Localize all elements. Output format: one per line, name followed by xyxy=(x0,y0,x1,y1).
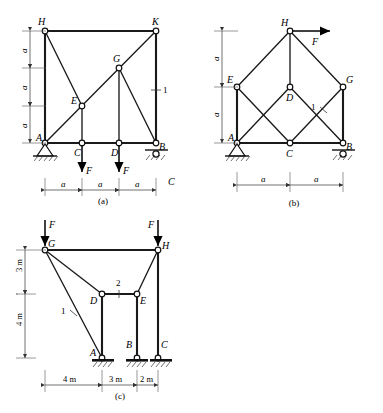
node-label-H: H xyxy=(280,17,289,28)
svg-text:a: a xyxy=(19,48,29,53)
node-label-G: G xyxy=(48,238,55,249)
node-label-D: D xyxy=(285,92,294,103)
figure-b-truss: H E G D A C B 1 xyxy=(196,0,383,215)
svg-text:F: F xyxy=(311,36,319,47)
node-label-D: D xyxy=(89,295,98,306)
node-label-B: B xyxy=(126,339,132,350)
support-pin-A-b xyxy=(225,144,250,161)
svg-text:a: a xyxy=(211,56,221,61)
support-pin-A-a xyxy=(33,144,58,161)
support-base-C-c xyxy=(150,359,172,367)
figure-c-truss: G H D E A B C 1 2 xyxy=(14,206,244,413)
figure-caption-b: (b) xyxy=(274,198,314,208)
svg-text:3 m: 3 m xyxy=(14,259,24,272)
member-marker-1-b: 1 xyxy=(311,102,327,113)
svg-text:1: 1 xyxy=(311,102,316,112)
svg-text:a: a xyxy=(261,174,266,184)
node-label-G: G xyxy=(346,74,353,85)
vertical-dimensions-a: a a a xyxy=(19,31,46,143)
svg-text:4 m: 4 m xyxy=(63,374,76,384)
svg-text:4 m: 4 m xyxy=(14,313,24,326)
svg-text:3 m: 3 m xyxy=(109,374,122,384)
node-label-A: A xyxy=(35,132,43,143)
svg-text:F: F xyxy=(85,165,93,176)
svg-text:a: a xyxy=(61,179,66,189)
node-label-E: E xyxy=(70,95,77,106)
horizontal-dimensions-c: 4 m 3 m 2 m xyxy=(45,370,158,392)
support-base-B-c xyxy=(126,359,148,367)
svg-text:a: a xyxy=(211,112,221,117)
node-label-A: A xyxy=(227,132,235,143)
svg-text:a: a xyxy=(314,174,319,184)
node-label-H: H xyxy=(37,16,46,27)
load-arrow-C-a: F xyxy=(82,145,93,176)
figure-caption-a: (a) xyxy=(83,196,123,206)
svg-text:2: 2 xyxy=(116,278,121,288)
horizontal-dimensions-a: a a a xyxy=(45,178,156,196)
svg-text:F: F xyxy=(122,165,130,176)
load-arrow-H-c: F xyxy=(147,219,158,246)
node-label-G: G xyxy=(113,53,120,64)
node-label-K: K xyxy=(151,16,160,27)
node-label-H: H xyxy=(161,240,170,251)
svg-text:a: a xyxy=(135,179,140,189)
svg-text:a: a xyxy=(98,179,103,189)
node-label-C: C xyxy=(74,147,81,158)
svg-text:F: F xyxy=(147,219,155,230)
svg-text:2 m: 2 m xyxy=(140,374,153,384)
node-label-E: E xyxy=(139,295,146,306)
figure-caption-c: (c) xyxy=(100,391,140,401)
support-base-A-c xyxy=(92,359,114,367)
node-label-C: C xyxy=(161,339,168,350)
load-arrow-D-a: F xyxy=(119,145,130,176)
svg-text:1: 1 xyxy=(61,306,66,316)
truss-members-a xyxy=(45,31,156,143)
stray-label-c: C xyxy=(168,176,175,187)
svg-text:1: 1 xyxy=(163,85,168,95)
svg-text:F: F xyxy=(48,219,56,230)
svg-text:a: a xyxy=(19,123,29,128)
vertical-dimensions-b: a a xyxy=(211,31,238,143)
node-label-D: D xyxy=(110,147,119,158)
node-label-C: C xyxy=(286,148,293,159)
node-label-E: E xyxy=(226,74,233,85)
node-label-A: A xyxy=(89,347,97,358)
member-marker-1-a: 1 xyxy=(151,85,168,95)
svg-text:a: a xyxy=(19,85,29,90)
horizontal-dimensions-b: a a xyxy=(237,172,343,192)
